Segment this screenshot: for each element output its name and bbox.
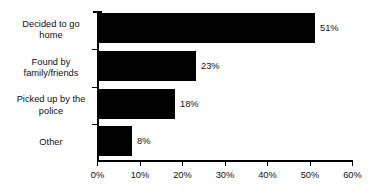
bar-0 — [98, 13, 315, 43]
x-axis-label-40: 40% — [245, 170, 291, 181]
x-axis-label-60: 60% — [330, 170, 370, 181]
bar-value-2: 18% — [180, 99, 199, 110]
x-axis-tick-0 — [97, 161, 98, 166]
x-axis-tick-10 — [140, 161, 141, 166]
bar-3 — [98, 126, 132, 156]
x-axis-label-20: 20% — [160, 170, 206, 181]
x-axis-tick-50 — [310, 161, 311, 166]
bar-2 — [98, 89, 175, 119]
plot-area: 0% 10% 20% 30% 40% 50% 60% 51% 23% 18% 8… — [0, 0, 370, 194]
bar-1 — [98, 51, 196, 81]
x-axis-label-30: 30% — [202, 170, 248, 181]
x-axis-tick-30 — [225, 161, 226, 166]
bar-value-3: 8% — [137, 136, 150, 147]
x-axis-label-50: 50% — [287, 170, 333, 181]
bar-value-0: 51% — [320, 23, 339, 34]
bar-value-1: 23% — [201, 61, 220, 72]
x-axis-tick-40 — [267, 161, 268, 166]
horizontal-bar-chart: Decided to go home Found by family/frien… — [0, 0, 370, 194]
x-axis-tick-60 — [352, 161, 353, 166]
x-axis-label-0: 0% — [75, 170, 121, 181]
x-axis-label-10: 10% — [117, 170, 163, 181]
x-axis-tick-20 — [182, 161, 183, 166]
